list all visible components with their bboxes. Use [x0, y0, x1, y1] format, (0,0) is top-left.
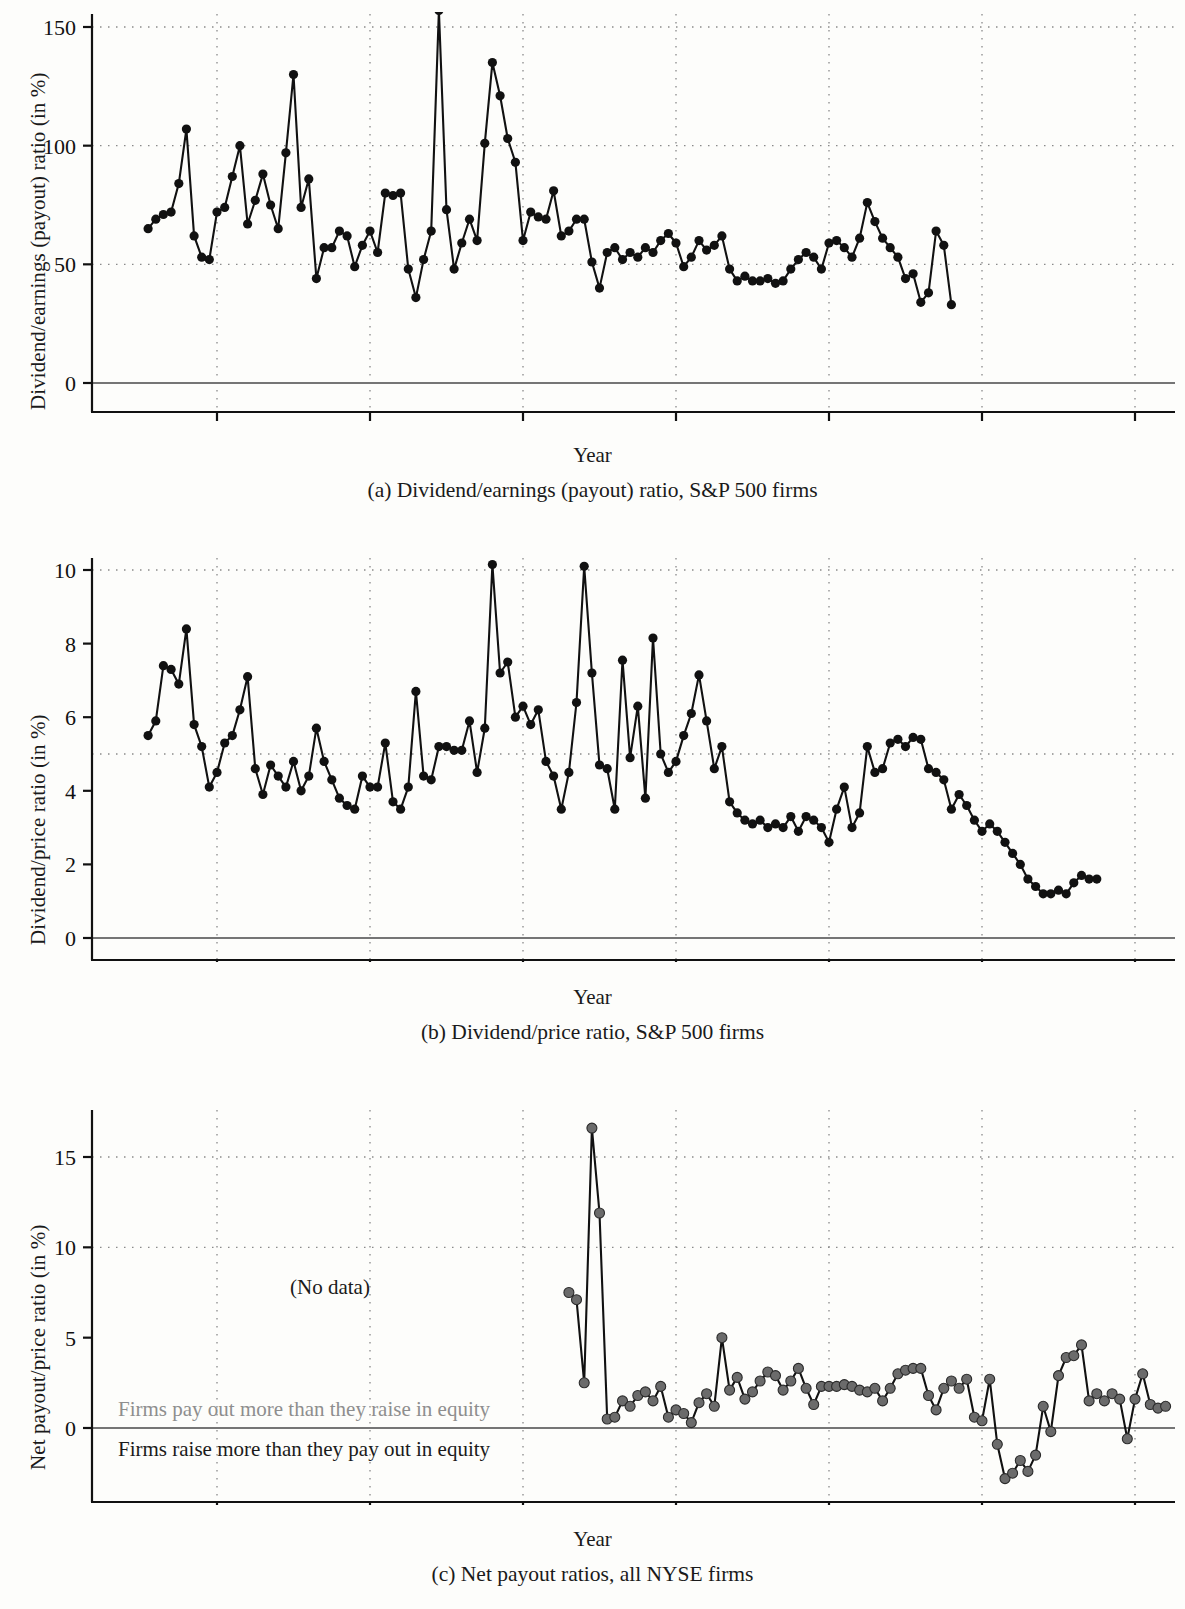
- svg-text:8: 8: [65, 632, 76, 657]
- panel-c-y-axis-label: Net payout/price ratio (in %): [26, 1225, 51, 1470]
- panel-a-caption: (a) Dividend/earnings (payout) ratio, S&…: [0, 478, 1185, 503]
- svg-text:0: 0: [65, 926, 76, 951]
- panel-b-dividend-price: Dividend/price ratio (in %) 024681018801…: [0, 520, 1185, 1065]
- no-data-annotation: (No data): [290, 1275, 370, 1299]
- panel-b-x-axis-label: Year: [0, 985, 1185, 1010]
- svg-text:1940: 1940: [654, 425, 698, 430]
- panel-a-plot: 0501001501880190019201940196019802000: [0, 0, 1185, 430]
- panel-b-plot: 02468101880190019201940196019802000: [0, 520, 1185, 962]
- panel-c-plot: 0510151880190019201940196019802000(No da…: [0, 1065, 1185, 1505]
- panel-c-x-axis-label: Year: [0, 1527, 1185, 1552]
- panel-a-y-axis-label: Dividend/earnings (payout) ratio (in %): [26, 73, 51, 410]
- panel-a-x-axis-label: Year: [0, 443, 1185, 468]
- svg-text:5: 5: [65, 1326, 76, 1351]
- panel-b-caption: (b) Dividend/price ratio, S&P 500 firms: [0, 1020, 1185, 1045]
- svg-text:0: 0: [65, 371, 76, 396]
- svg-text:10: 10: [54, 558, 76, 583]
- svg-text:2000: 2000: [1113, 425, 1157, 430]
- svg-text:4: 4: [65, 779, 76, 804]
- svg-text:2: 2: [65, 852, 76, 877]
- svg-text:1960: 1960: [807, 425, 851, 430]
- panel-a-dividend-earnings: Dividend/earnings (payout) ratio (in %) …: [0, 0, 1185, 520]
- svg-text:10: 10: [54, 1235, 76, 1260]
- svg-text:1920: 1920: [501, 425, 545, 430]
- svg-text:50: 50: [54, 252, 76, 277]
- svg-text:6: 6: [65, 705, 76, 730]
- svg-text:15: 15: [54, 1145, 76, 1170]
- panel-c-net-payout: Net payout/price ratio (in %) 0510151880…: [0, 1065, 1185, 1609]
- svg-text:1980: 1980: [960, 425, 1004, 430]
- svg-text:0: 0: [65, 1416, 76, 1441]
- panel-b-y-axis-label: Dividend/price ratio (in %): [26, 714, 51, 945]
- svg-text:150: 150: [43, 15, 76, 40]
- svg-text:1880: 1880: [195, 425, 239, 430]
- pay-out-more-annotation: Firms pay out more than they raise in eq…: [118, 1397, 491, 1421]
- raise-more-annotation: Firms raise more than they pay out in eq…: [118, 1437, 491, 1461]
- panel-c-caption: (c) Net payout ratios, all NYSE firms: [0, 1562, 1185, 1587]
- svg-text:1900: 1900: [348, 425, 392, 430]
